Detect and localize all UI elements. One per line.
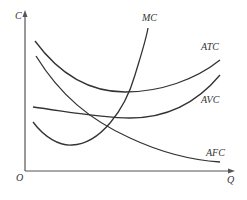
atc-curve [35,41,220,92]
afc-label: AFC [205,147,225,158]
origin-label: O [16,172,23,183]
avc-label: AVC [200,94,220,105]
afc-curve [36,56,220,162]
mc-label: MC [141,12,157,23]
cost-curves-chart: C Q O MC ATC AVC AFC [0,0,247,200]
y-axis-arrow-icon [23,10,28,17]
x-axis-label: Q [227,174,235,185]
x-axis-arrow-icon [228,169,235,174]
atc-label: ATC [200,41,219,52]
y-axis-label: C [15,10,22,21]
